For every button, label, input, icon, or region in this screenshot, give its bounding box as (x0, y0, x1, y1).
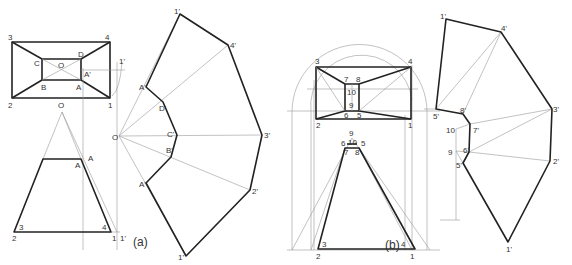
label-B-prime-dev: B' (166, 146, 173, 155)
label-D-prime-dev: D' (159, 104, 167, 113)
label-3: 3 (8, 33, 13, 42)
label-3-b: 3 (315, 57, 320, 66)
label-5-prime-b-dev-lower: 5' (456, 161, 462, 170)
label-4-b-front: 4 (401, 240, 406, 249)
label-2-b: 2 (316, 121, 321, 130)
label-2-prime-b-dev: 2' (553, 157, 559, 166)
part-a-top-view: 3 4 2 1 C D O B A A' 1' (8, 33, 125, 250)
label-1-prime-b-dev-top: 1' (440, 12, 446, 21)
label-10-b-front: 10 (348, 138, 357, 147)
label-O-front: O (58, 101, 64, 110)
label-8-b: 8 (356, 75, 361, 84)
label-1-prime-dev-bottom: 1' (178, 253, 184, 262)
label-9-b-dev: 9 (448, 148, 453, 157)
label-6-b-front: 6 (341, 139, 346, 148)
label-1-front: 1 (112, 234, 117, 243)
caption-b: (b) (385, 238, 400, 252)
label-5-b-front: 5 (361, 139, 366, 148)
label-2-front: 2 (12, 234, 17, 243)
part-b-top-view: 3 4 2 1 7 8 10 9 6 5 (315, 57, 413, 130)
part-a-development: O 1' 4' 3' 2' 1' A' D' C' B' A' (112, 7, 270, 262)
label-O-dev: O (112, 133, 118, 142)
label-4: 4 (105, 33, 110, 42)
caption-a: (a) (133, 235, 148, 249)
label-4-front: 4 (102, 223, 107, 232)
technical-drawing: 3 4 2 1 C D O B A A' 1' O A A 3 4 2 1 1' (0, 0, 572, 265)
label-A-prime-dev-bottom: A' (139, 180, 146, 189)
label-3-b-front: 3 (322, 240, 327, 249)
label-7-prime-b-dev: 7' (473, 126, 479, 135)
label-6-prime-b-dev: 6' (463, 146, 469, 155)
label-4-prime-b-dev: 4' (501, 24, 507, 33)
label-5-prime-b-dev-upper: 5' (433, 112, 439, 121)
label-1-b: 1 (408, 121, 413, 130)
label-8-prime-b-dev: 8' (460, 106, 466, 115)
label-9-b: 9 (349, 101, 354, 110)
label-4-b: 4 (408, 57, 413, 66)
part-b-development: 1' 4' 5' 8' 10 7' 3' 9 6' 5' 2' 1' (424, 12, 559, 254)
label-2: 2 (8, 101, 13, 110)
part-b: 3 4 2 1 7 8 10 9 6 5 9 10 6 5 7 8 3 (287, 12, 559, 261)
part-a-front-view: O A A 3 4 2 1 1' (12, 101, 126, 243)
part-a: 3 4 2 1 C D O B A A' 1' O A A 3 4 2 1 1' (8, 7, 270, 262)
label-1-prime-dev-top: 1' (174, 7, 180, 16)
label-1-prime-front: 1' (120, 234, 126, 243)
label-3-prime-dev: 3' (264, 131, 270, 140)
label-10-b-dev: 10 (446, 126, 455, 135)
label-A-lower: A (75, 161, 81, 170)
label-7-b-front: 7 (344, 148, 349, 157)
label-1-prime-b-dev-bottom: 1' (506, 245, 512, 254)
label-4-prime-dev: 4' (230, 41, 236, 50)
label-2-b-front: 2 (316, 252, 321, 261)
part-b-front-view: 9 10 6 5 7 8 3 4 2 1 (287, 129, 440, 261)
label-3-front: 3 (19, 223, 24, 232)
label-1-b-front: 1 (410, 252, 415, 261)
label-6-b: 6 (344, 111, 349, 120)
label-5-b: 5 (357, 111, 362, 120)
label-C-prime-dev: C' (167, 130, 175, 139)
label-7-b: 7 (344, 75, 349, 84)
label-D: D (78, 50, 84, 59)
label-1: 1 (108, 101, 113, 110)
label-1-prime-top: 1' (119, 57, 125, 66)
label-B: B (41, 83, 46, 92)
label-A-prime-dev-top: A' (139, 83, 146, 92)
label-9-b-front: 9 (349, 129, 354, 138)
label-C: C (34, 59, 40, 68)
label-O: O (58, 61, 64, 70)
label-A-upper: A (88, 154, 94, 163)
label-3-prime-b-dev: 3' (553, 105, 559, 114)
label-10-b: 10 (347, 88, 356, 97)
label-A-prime: A' (84, 70, 91, 79)
label-8-b-front: 8 (355, 148, 360, 157)
label-A: A (76, 83, 82, 92)
label-2-prime-dev: 2' (252, 187, 258, 196)
